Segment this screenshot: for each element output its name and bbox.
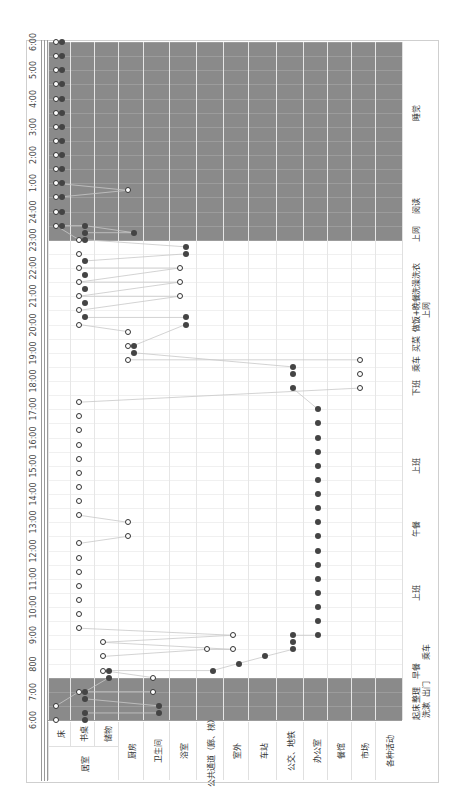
filled-circle-marker <box>82 696 88 702</box>
open-circle-marker <box>230 646 236 652</box>
filled-circle-marker <box>59 194 65 200</box>
time-tick-label: 17:00 <box>29 398 38 421</box>
time-tick-label: 5:00 <box>29 61 38 79</box>
open-circle-marker <box>125 357 131 363</box>
time-tick-label: 3:00 <box>29 118 38 136</box>
filled-circle-marker <box>82 230 88 236</box>
location-label: 公交、地铁 <box>276 722 303 780</box>
filled-circle-marker <box>59 53 65 59</box>
filled-circle-marker <box>315 576 321 582</box>
location-label-text: 公交、地铁 <box>285 731 296 771</box>
location-label: 室外 <box>223 722 248 780</box>
time-tick: 7:00 <box>26 678 40 706</box>
time-tick: 16:00 <box>26 424 40 452</box>
location-label: 车站 <box>248 722 276 780</box>
filled-circle-marker <box>82 237 88 243</box>
filled-circle-marker <box>131 343 137 349</box>
time-tick-label: 15:00 <box>29 454 38 477</box>
filled-circle-marker <box>290 646 296 652</box>
open-circle-marker <box>125 533 131 539</box>
time-tick-label: 23:00 <box>29 228 38 251</box>
open-circle-marker <box>76 322 82 328</box>
location-label-text: 浴室 <box>178 743 189 759</box>
filled-circle-marker <box>236 661 242 667</box>
time-tick: 12:00 <box>26 537 40 565</box>
time-tick: 23:00 <box>26 226 40 254</box>
activity-label-text: 乘车 <box>410 356 421 372</box>
time-tick: 21:00 <box>26 282 40 310</box>
location-label: 书桌 <box>70 722 94 746</box>
filled-circle-marker <box>315 618 321 624</box>
filled-circle-marker <box>315 435 321 441</box>
location-label-text: 车站 <box>257 743 268 759</box>
connector-lines <box>48 42 402 720</box>
time-tick: 20:00 <box>26 311 40 339</box>
filled-circle-marker <box>106 668 112 674</box>
filled-circle-marker <box>156 710 162 716</box>
time-tick: 5:00 <box>26 56 40 84</box>
filled-circle-marker <box>131 230 137 236</box>
filled-circle-marker <box>290 632 296 638</box>
filled-circle-marker <box>315 533 321 539</box>
filled-circle-marker <box>59 110 65 116</box>
location-label-text: 室外 <box>231 743 242 759</box>
open-circle-marker <box>76 265 82 271</box>
time-tick-label: 16:00 <box>29 426 38 449</box>
time-tick-label: 6:00 <box>29 33 38 51</box>
axis-divider <box>41 40 42 781</box>
filled-circle-marker <box>59 96 65 102</box>
filled-circle-marker <box>315 449 321 455</box>
time-tick-label: 1:00 <box>29 174 38 192</box>
open-circle-marker <box>76 413 82 419</box>
filled-circle-marker <box>59 138 65 144</box>
open-circle-marker <box>150 689 156 695</box>
time-tick-label: 21:00 <box>29 285 38 308</box>
filled-circle-marker <box>82 710 88 716</box>
time-tick: 11:00 <box>26 565 40 593</box>
location-label-text: 卫生间 <box>151 739 162 763</box>
time-tick-label: 14:00 <box>29 482 38 505</box>
activity-label-text: 买菜 <box>410 336 421 352</box>
time-tick-label: 24:00 <box>29 200 38 223</box>
filled-circle-marker <box>131 350 137 356</box>
activity-label-text: 睡觉 <box>410 105 421 121</box>
filled-circle-marker <box>59 180 65 186</box>
open-circle-marker <box>76 625 82 631</box>
open-circle-marker <box>76 583 82 589</box>
filled-circle-marker <box>290 639 296 645</box>
filled-circle-marker <box>82 300 88 306</box>
location-label: 公共通道（廊、梯） <box>196 722 223 780</box>
filled-circle-marker <box>59 124 65 130</box>
time-tick: 15:00 <box>26 452 40 480</box>
location-label: 餐馆 <box>327 722 351 780</box>
activity-label-text: 下班 <box>410 380 421 396</box>
filled-circle-marker <box>315 491 321 497</box>
open-circle-marker <box>76 597 82 603</box>
filled-circle-marker <box>82 223 88 229</box>
open-circle-marker <box>204 646 210 652</box>
filled-circle-marker <box>315 519 321 525</box>
location-label: 卫生间 <box>143 722 169 780</box>
location-label-text: 餐馆 <box>334 743 345 759</box>
open-circle-marker <box>76 555 82 561</box>
time-tick-label: 19:00 <box>29 341 38 364</box>
open-circle-marker <box>76 427 82 433</box>
open-circle-marker <box>76 540 82 546</box>
open-circle-marker <box>100 653 106 659</box>
activity-label-text: 阅读 <box>410 198 421 214</box>
open-circle-marker <box>76 251 82 257</box>
open-circle-marker <box>177 293 183 299</box>
activity-label-text: 洗漱 <box>420 702 431 718</box>
location-label: 厨房 <box>118 722 143 780</box>
time-axis: 6:007:008009:0010:0011:0012:0013:0014:00… <box>26 40 40 720</box>
time-tick-label: 18:00 <box>29 369 38 392</box>
filled-circle-marker <box>59 67 65 73</box>
filled-circle-marker <box>82 258 88 264</box>
time-tick: 24:00 <box>26 198 40 226</box>
filled-circle-marker <box>106 675 112 681</box>
open-circle-marker <box>76 569 82 575</box>
filled-circle-marker <box>315 406 321 412</box>
activity-label-text: 午餐 <box>410 521 421 537</box>
location-label-text: 各种活动 <box>384 735 395 767</box>
location-label: 床 <box>48 722 70 746</box>
